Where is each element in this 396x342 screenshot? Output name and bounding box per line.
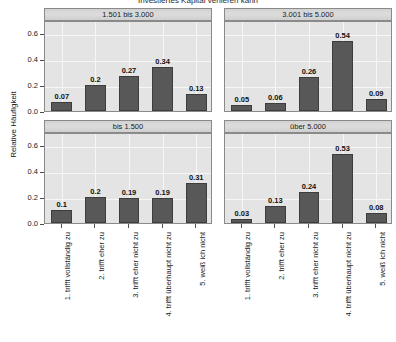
bar [51, 210, 72, 223]
x-tick-label: 5. weiß ich nicht [199, 232, 207, 286]
bar-value-label: 0.07 [45, 93, 79, 101]
panel-title-top-right: 3.001 bis 5.000 [224, 8, 392, 21]
plot-area-bottom-right: 0.030.130.240.530.08 [224, 133, 392, 224]
x-tick-mark [195, 224, 196, 228]
bar-value-label: 0.08 [359, 204, 392, 212]
x-tick-mark [342, 224, 343, 228]
y-tick-label: 0.2 [28, 82, 38, 90]
bar [51, 102, 72, 111]
x-tick-mark [61, 224, 62, 228]
x-tick-label: 5. weiß ich nicht [379, 232, 387, 286]
bar-value-label: 0.34 [146, 58, 180, 66]
bar [332, 154, 353, 223]
panel-bottom-left: bis 1.500 0.10.20.190.190.31 [44, 120, 212, 224]
chart-title: Investiertes Kapital verlieren kann [0, 0, 396, 5]
panel-title-top-left: 1.501 bis 3.000 [44, 8, 212, 21]
bar-value-label: 0.2 [79, 188, 113, 196]
bar-value-label: 0.13 [259, 197, 293, 205]
bar-value-label: 0.03 [225, 210, 259, 218]
bar-value-label: 0.05 [225, 96, 259, 104]
x-tick-mark [375, 224, 376, 228]
y-tick-label: 0.0 [28, 220, 38, 228]
bar [85, 197, 106, 223]
panel-grid: 1.501 bis 3.000 0.070.20.270.340.13 3.00… [44, 8, 392, 224]
x-tick-label: 3. trifft eher nicht zu [132, 232, 140, 298]
y-axis-bottom: 0.00.20.40.6 [14, 133, 44, 224]
panel-top-left: 1.501 bis 3.000 0.070.20.270.340.13 [44, 8, 212, 112]
bar [85, 85, 106, 111]
bar [231, 105, 252, 112]
x-tick-label: 1. trifft vollständig zu [64, 232, 72, 300]
bar-value-label: 0.06 [259, 94, 293, 102]
panel-title-bottom-right: über 5.000 [224, 120, 392, 133]
y-tick-label: 0.0 [28, 108, 38, 116]
y-tick-label: 0.4 [28, 168, 38, 176]
x-tick-mark [94, 224, 95, 228]
bar-value-label: 0.53 [326, 145, 360, 153]
bar [366, 99, 387, 111]
bar-series-bottom-left: 0.10.20.190.190.31 [45, 134, 211, 223]
bar-value-label: 0.19 [146, 189, 180, 197]
bar-value-label: 0.13 [179, 85, 212, 93]
x-tick-label: 2. trifft eher zu [98, 232, 106, 280]
x-tick-mark [308, 224, 309, 228]
x-tick-label: 4. trifft überhaupt nicht zu [345, 232, 353, 317]
bar [265, 206, 286, 223]
y-axis-top: 0.00.20.40.6 [14, 21, 44, 112]
bar [152, 198, 173, 223]
bar [332, 41, 353, 111]
x-tick-label: 2. trifft eher zu [278, 232, 286, 280]
bar [299, 192, 320, 223]
panel-bottom-right: über 5.000 0.030.130.240.530.08 [224, 120, 392, 224]
bar-value-label: 0.54 [326, 32, 360, 40]
y-tick-label: 0.4 [28, 56, 38, 64]
bar-value-label: 0.27 [112, 67, 146, 75]
bar [265, 103, 286, 111]
x-tick-label: 4. trifft überhaupt nicht zu [165, 232, 173, 317]
y-tick-label: 0.6 [28, 30, 38, 38]
x-tick-mark [162, 224, 163, 228]
chart-root: Investiertes Kapital verlieren kann Rela… [0, 0, 396, 342]
x-tick-mark [274, 224, 275, 228]
bar-value-label: 0.31 [179, 174, 212, 182]
bar-series-bottom-right: 0.030.130.240.530.08 [225, 134, 391, 223]
panel-top-right: 3.001 bis 5.000 0.050.060.260.540.09 [224, 8, 392, 112]
x-tick-label: 3. trifft eher nicht zu [312, 232, 320, 298]
plot-area-bottom-left: 0.10.20.190.190.31 [44, 133, 212, 224]
plot-area-top-right: 0.050.060.260.540.09 [224, 21, 392, 112]
bar-series-top-right: 0.050.060.260.540.09 [225, 22, 391, 111]
bar [366, 213, 387, 223]
bar [186, 183, 207, 223]
bar [119, 76, 140, 111]
x-axis-left: 1. trifft vollständig zu2. trifft eher z… [44, 224, 212, 342]
bar [231, 219, 252, 223]
x-axis-right: 1. trifft vollständig zu2. trifft eher z… [224, 224, 392, 342]
bar-value-label: 0.19 [112, 189, 146, 197]
bar [119, 198, 140, 223]
panel-title-bottom-left: bis 1.500 [44, 120, 212, 133]
y-tick-label: 0.2 [28, 194, 38, 202]
bar-value-label: 0.26 [292, 68, 326, 76]
y-tick-label: 0.6 [28, 142, 38, 150]
plot-area-top-left: 0.070.20.270.340.13 [44, 21, 212, 112]
bar [186, 94, 207, 111]
x-tick-label: 1. trifft vollständig zu [244, 232, 252, 300]
bar-value-label: 0.1 [45, 201, 79, 209]
bar-value-label: 0.2 [79, 76, 113, 84]
bar-value-label: 0.09 [359, 90, 392, 98]
bar [152, 67, 173, 111]
bar [299, 77, 320, 111]
x-tick-mark [241, 224, 242, 228]
bar-series-top-left: 0.070.20.270.340.13 [45, 22, 211, 111]
x-tick-mark [128, 224, 129, 228]
bar-value-label: 0.24 [292, 183, 326, 191]
